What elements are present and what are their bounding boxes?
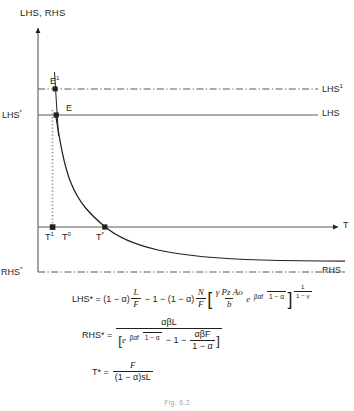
- axis-label-lhs: LHS: [322, 109, 340, 118]
- frac-NF-den: F: [196, 298, 206, 309]
- eq-lhs-star-term2: (1 − α): [168, 294, 194, 304]
- marker-e-prime: [53, 86, 58, 91]
- frac-LF-num: L: [131, 288, 140, 298]
- eq-lhs-star-frac-LF: L F: [131, 288, 141, 309]
- equation-block: LHS* = (1 − α) L F − 1 − (1 − α) N F [ γ…: [60, 285, 354, 397]
- t-star-numerator: F: [128, 361, 138, 371]
- point-label-e: E: [66, 104, 72, 113]
- equation-t-star: T* = F (1 − α)sL: [92, 361, 154, 382]
- outer-exp-den: 1 − γ: [294, 291, 312, 299]
- equation-rhs-star: RHS* = αβL [ e βαf 1 − α − 1 − αβF 1 − α: [82, 318, 223, 351]
- rhs-star-base: RHS: [1, 267, 20, 277]
- t-star-denominator: (1 − α)sL: [113, 371, 153, 382]
- eq-lhs-star-e-exponent: βαf 1 − α: [252, 293, 286, 301]
- figure-caption: Fig. 6.2: [0, 399, 354, 406]
- eq-t-star-fraction: F (1 − α)sL: [113, 361, 153, 382]
- den-inner-fraction: αβF 1 − α: [190, 330, 214, 351]
- den-e-exp-den: 1 − α: [143, 332, 162, 341]
- eq-lhs-star-minus1: − 1 −: [142, 294, 168, 304]
- den-frac-den: 1 − α: [190, 340, 214, 351]
- equation-lhs-star: LHS* = (1 − α) L F − 1 − (1 − α) N F [ γ…: [72, 288, 313, 309]
- marker-t-star: [102, 224, 107, 229]
- rhs-star-numerator: αβL: [159, 318, 178, 328]
- rhs-star-denominator: [ e βαf 1 − α − 1 − αβF 1 − α ]: [116, 328, 222, 351]
- frac-NF-num: N: [196, 288, 206, 298]
- den-middle-ops: − 1 −: [163, 336, 189, 345]
- axis-label-rhs-star: RHS*: [1, 266, 22, 277]
- eq-t-star-label: T*: [92, 367, 101, 377]
- axis-label-lhs-star: LHS*: [2, 109, 22, 120]
- e-exp-num: βαf: [252, 293, 265, 301]
- eq-lhs-star-frac-NF: N F: [196, 288, 206, 309]
- t-zero-sup: 0: [68, 230, 71, 237]
- tick-label-t-prime: T1: [45, 231, 54, 242]
- tick-label-t-star: T*: [96, 231, 104, 242]
- e-exp-den: 1 − α: [267, 291, 286, 300]
- marker-e: [54, 112, 59, 117]
- den-frac-num: αβF: [193, 330, 213, 340]
- eq-lhs-star-label: LHS*: [72, 294, 93, 304]
- t-prime-sup: 1: [51, 230, 54, 237]
- den-e-base: e: [122, 336, 126, 345]
- eq-lhs-star-term1: (1 − α): [103, 294, 129, 304]
- axis-label-rhs: RHS: [322, 266, 341, 275]
- lhs-star-base: LHS: [2, 110, 20, 120]
- den-e-exponent: βαf 1 − α: [127, 335, 161, 342]
- eq-lhs-star-bracket-open: [: [207, 290, 212, 308]
- eq-lhs-star-equals: =: [93, 294, 103, 304]
- eq-rhs-star-label: RHS*: [82, 330, 105, 340]
- frac-gamma-den: b: [225, 298, 234, 309]
- eq-lhs-star-frac-gamma: γ Pz Ao b: [214, 288, 245, 309]
- den-e-exp-num: βαf: [127, 334, 140, 342]
- lhs-prime-sup: 1: [340, 82, 343, 89]
- rhs-star-sup: *: [20, 265, 22, 272]
- e-prime-sup: 1: [56, 74, 59, 81]
- figure-container: LHS, RHS LHS* RHS* LHS1 LHS T RHS E1 E T…: [0, 0, 354, 411]
- point-label-e-prime: E1: [50, 75, 59, 86]
- lhs-star-sup: *: [20, 108, 22, 115]
- axis-label-lhs-prime: LHS1: [322, 83, 343, 94]
- eq-lhs-star-outer-exponent: 1 1 − γ: [294, 284, 312, 299]
- t-star-sup: *: [102, 230, 104, 237]
- den-bracket-close: ]: [216, 334, 220, 347]
- eq-lhs-star-e-base: e: [246, 294, 250, 304]
- frac-LF-den: F: [131, 298, 141, 309]
- eq-rhs-star-equals: =: [105, 330, 115, 340]
- axis-label-t: T: [343, 221, 349, 230]
- frac-gamma-num: γ Pz Ao: [214, 288, 245, 298]
- lhs-prime-base: LHS: [322, 84, 340, 94]
- y-axis-title: LHS, RHS: [20, 8, 65, 18]
- outer-exp-num: 1: [299, 284, 306, 291]
- eq-lhs-star-bracket-close: ]: [287, 290, 292, 308]
- eq-rhs-star-fraction: αβL [ e βαf 1 − α − 1 − αβF 1 − α ]: [116, 318, 222, 351]
- eq-t-star-equals: =: [101, 367, 111, 377]
- tick-label-t-zero: T0: [62, 231, 71, 242]
